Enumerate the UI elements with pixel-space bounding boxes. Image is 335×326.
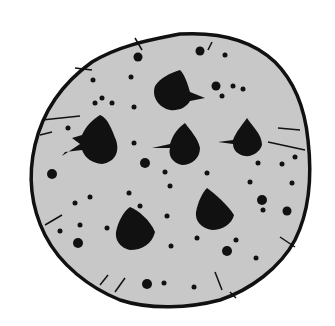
- cookie-illustration: [0, 0, 335, 326]
- cookie-svg: [0, 0, 335, 326]
